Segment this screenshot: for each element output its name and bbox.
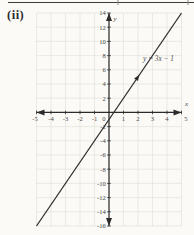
y-axis-label: y: [113, 15, 118, 23]
svg-text:-4: -4: [48, 115, 54, 122]
svg-text:-3: -3: [63, 115, 69, 122]
svg-text:4: 4: [165, 115, 169, 122]
svg-text:-6: -6: [100, 151, 106, 158]
x-axis-label: x: [184, 100, 189, 108]
svg-text:12: 12: [99, 24, 106, 31]
svg-text:-12: -12: [97, 194, 106, 201]
svg-text:-16: -16: [97, 222, 106, 229]
svg-text:-1: -1: [92, 115, 98, 122]
svg-text:-2: -2: [77, 115, 83, 122]
svg-text:2: 2: [136, 115, 139, 122]
svg-text:-8: -8: [100, 166, 106, 173]
svg-text:-4: -4: [100, 137, 106, 144]
svg-text:-5: -5: [32, 115, 38, 122]
svg-text:-10: -10: [97, 180, 106, 187]
graph-svg: -5-4-3-2-1012345-16-14-12-10-8-6-4-22468…: [0, 0, 194, 235]
svg-text:5: 5: [184, 115, 188, 122]
svg-text:14: 14: [99, 9, 106, 16]
page: (ii) -5-4-3-2-1012345-16-14-12-10-8-6-4-…: [0, 0, 194, 235]
svg-text:0: 0: [102, 115, 106, 122]
svg-text:3: 3: [151, 115, 155, 122]
svg-text:10: 10: [99, 38, 106, 45]
svg-text:-14: -14: [97, 208, 106, 215]
svg-text:2: 2: [103, 95, 106, 102]
svg-text:1: 1: [122, 115, 125, 122]
equation-label: y = 3x − 1: [142, 54, 174, 63]
